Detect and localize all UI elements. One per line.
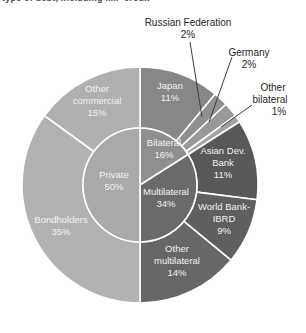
label-private-percent: 50% (104, 181, 124, 192)
label-asian-dev-bank-line1: Asian Dev. (200, 145, 245, 156)
label-bondholders-percent: 35% (51, 226, 71, 237)
label-japan-percent: 11% (161, 92, 180, 103)
label-world-bank-ibrd-percent: 9% (217, 225, 231, 236)
label-other-commercial-line1: Other (85, 83, 109, 94)
chart-page: type of debt, including IMF credit Japan… (0, 0, 306, 333)
label-germany-percent: 2% (242, 59, 257, 70)
label-multilateral-percent: 34% (156, 198, 176, 209)
label-bilateral-line1: Bilateral (147, 137, 181, 148)
clipped-caption-text: type of debt, including IMF credit (2, 0, 302, 4)
label-asian-dev-bank-line2: Bank (212, 157, 234, 168)
label-other-multilateral-line2: multilateral (154, 255, 200, 266)
label-multilateral-line1: Multilateral (143, 186, 189, 197)
label-other-commercial-percent: 15% (87, 107, 107, 118)
label-other-multilateral-percent: 14% (167, 267, 187, 278)
label-russian-federation-line1: Russian Federation (145, 17, 232, 28)
creditor-composition-donut-chart: Japan11%Russian Federation2%Germany2%Oth… (0, 0, 306, 333)
label-germany-line1: Germany (228, 47, 269, 58)
label-asian-dev-bank-percent: 11% (214, 169, 233, 180)
label-other-multilateral-line1: Other (165, 243, 189, 254)
clipped-caption: type of debt, including IMF credit (2, 0, 302, 4)
label-bilateral-percent: 16% (154, 149, 174, 160)
label-russian-federation-percent: 2% (181, 29, 196, 40)
label-japan-line1: Japan (157, 80, 183, 91)
label-other-bilateral-percent: 1% (272, 106, 287, 117)
label-private-line1: Private (99, 169, 129, 180)
label-other-bilateral-line1: Other (260, 82, 286, 93)
label-world-bank-ibrd-line2: IBRD (213, 213, 236, 224)
label-bondholders-line1: Bondholders (34, 214, 88, 225)
label-other-commercial-line2: commercial (73, 95, 122, 106)
label-world-bank-ibrd-line1: World Bank- (198, 201, 250, 212)
label-other-bilateral-line2: bilateral (252, 94, 287, 105)
